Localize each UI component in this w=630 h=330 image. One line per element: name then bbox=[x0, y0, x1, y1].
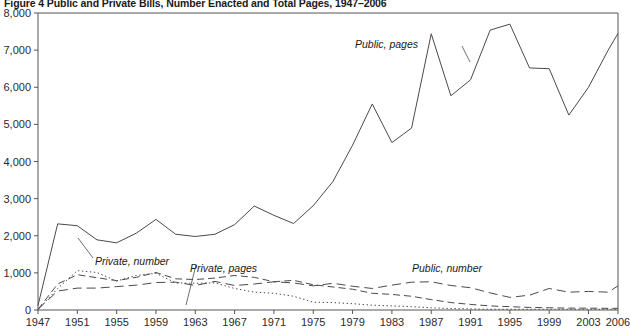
x-tick-label: 1967 bbox=[222, 316, 246, 328]
series-line-public-number bbox=[38, 281, 618, 309]
y-tick-label: 5,000 bbox=[3, 118, 31, 130]
y-axis-ticks bbox=[34, 13, 38, 310]
series-label-public-pages: Public, pages bbox=[355, 38, 419, 50]
y-tick-label: 3,000 bbox=[3, 193, 31, 205]
y-tick-label: 4,000 bbox=[3, 156, 31, 168]
x-tick-label: 2006 bbox=[606, 316, 630, 328]
y-tick-label: 6,000 bbox=[3, 81, 31, 93]
x-tick-label: 1963 bbox=[183, 316, 207, 328]
x-tick-label: 1951 bbox=[65, 316, 89, 328]
series-line-private-number bbox=[38, 271, 618, 310]
x-axis-tick-labels: 1947195119551959196319671971197519791983… bbox=[26, 316, 630, 328]
y-tick-label: 2,000 bbox=[3, 230, 31, 242]
x-tick-label: 1991 bbox=[458, 316, 482, 328]
x-tick-label: 1959 bbox=[144, 316, 168, 328]
x-tick-label: 1983 bbox=[380, 316, 404, 328]
x-tick-label: 1995 bbox=[498, 316, 522, 328]
leader-line-private-number bbox=[78, 238, 93, 258]
y-tick-label: 8,000 bbox=[3, 7, 31, 19]
x-tick-label: 1947 bbox=[26, 316, 50, 328]
x-tick-label: 1979 bbox=[340, 316, 364, 328]
line-chart: 01,0002,0003,0004,0005,0006,0007,0008,00… bbox=[0, 0, 630, 330]
series-label-public-number: Public, number bbox=[412, 262, 483, 274]
y-axis-tick-labels: 01,0002,0003,0004,0005,0006,0007,0008,00… bbox=[3, 7, 31, 316]
x-tick-label: 1971 bbox=[262, 316, 286, 328]
x-tick-label: 1987 bbox=[419, 316, 443, 328]
series-label-private-number: Private, number bbox=[95, 255, 170, 267]
x-tick-label: 1999 bbox=[537, 316, 561, 328]
y-tick-label: 0 bbox=[25, 304, 31, 316]
y-tick-label: 7,000 bbox=[3, 44, 31, 56]
x-axis-ticks bbox=[38, 310, 618, 314]
y-tick-label: 1,000 bbox=[3, 267, 31, 279]
x-tick-label: 1975 bbox=[301, 316, 325, 328]
leader-line-public-pages bbox=[462, 46, 470, 62]
figure-container: Figure 4 Public and Private Bills, Numbe… bbox=[0, 0, 630, 330]
series-line-private-pages bbox=[38, 273, 618, 310]
x-tick-label: 1955 bbox=[104, 316, 128, 328]
x-tick-label: 2003 bbox=[576, 316, 600, 328]
series-label-private-pages: Private, pages bbox=[190, 262, 258, 274]
